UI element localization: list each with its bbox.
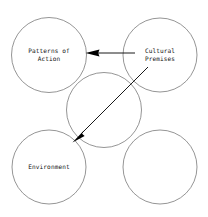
diagram-canvas: Patterns of Action Cultural Premises Env… bbox=[0, 0, 208, 217]
diagram-svg bbox=[0, 0, 208, 217]
node-circle-patterns-of-action[interactable] bbox=[12, 18, 87, 93]
node-circle-bottom-right[interactable] bbox=[123, 130, 197, 204]
node-circle-center[interactable] bbox=[67, 73, 142, 148]
arrow-head-left bbox=[86, 50, 100, 57]
